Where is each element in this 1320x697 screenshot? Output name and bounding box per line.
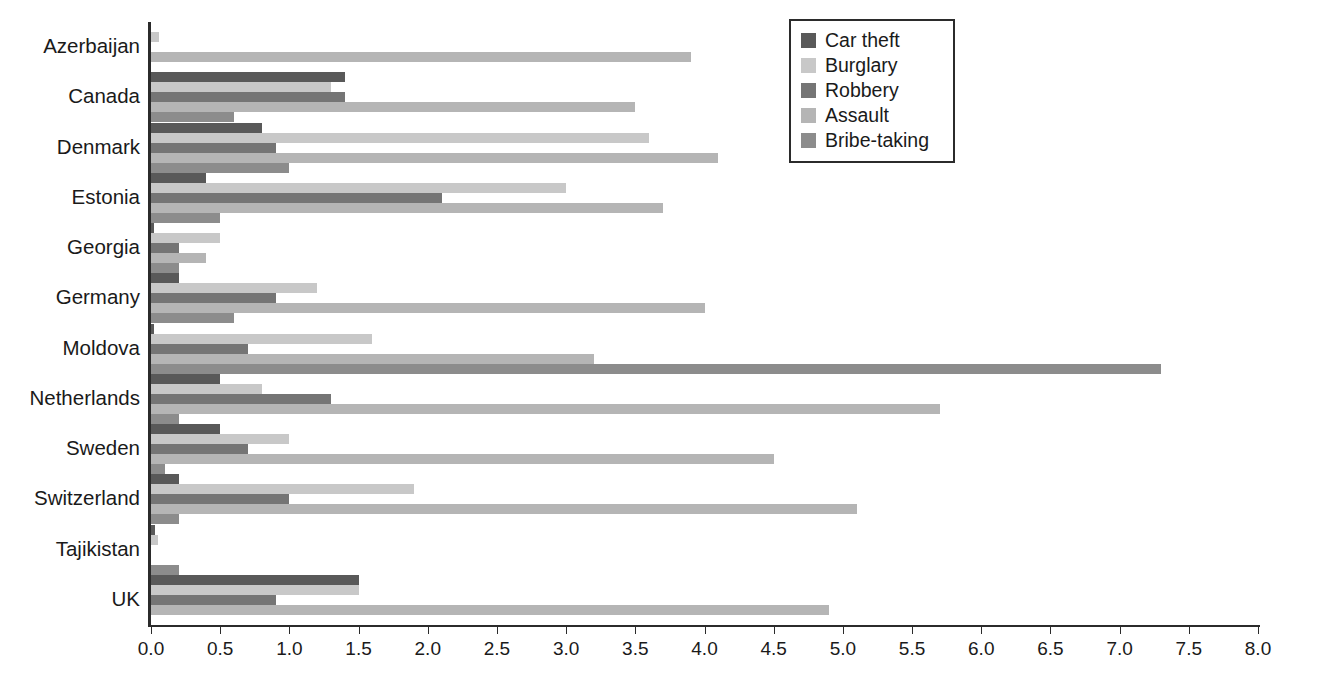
bar: [151, 414, 179, 424]
x-axis-tick: [428, 625, 429, 634]
bar: [151, 133, 649, 143]
bar: [151, 52, 691, 62]
x-axis-tick: [151, 625, 152, 634]
legend-label: Bribe-taking: [825, 131, 929, 151]
bar: [151, 303, 705, 313]
x-axis-tick: [220, 625, 221, 634]
bar: [151, 324, 154, 334]
x-axis-tick-label: 1.0: [276, 638, 302, 660]
x-axis-tick: [289, 625, 290, 634]
bar: [151, 474, 179, 484]
x-axis-tick-label: 4.5: [760, 638, 786, 660]
bar: [151, 394, 331, 404]
bar: [151, 183, 566, 193]
bar: [151, 293, 276, 303]
x-axis-tick-label: 7.5: [1176, 638, 1202, 660]
y-axis-category-label: Tajikistan: [56, 537, 140, 561]
y-axis-category-label: Switzerland: [34, 486, 140, 510]
bar: [151, 384, 262, 394]
legend-item: Burglary: [801, 53, 943, 78]
legend-label: Car theft: [825, 31, 900, 51]
bar: [151, 454, 774, 464]
legend-swatch-icon: [801, 108, 816, 123]
bar: [151, 444, 248, 454]
bar: [151, 163, 289, 173]
bar: [151, 112, 234, 122]
legend-swatch-icon: [801, 83, 816, 98]
x-axis-tick-label: 3.0: [553, 638, 579, 660]
legend-swatch-icon: [801, 33, 816, 48]
x-axis-tick: [705, 625, 706, 634]
x-axis-tick-label: 2.0: [415, 638, 441, 660]
bar: [151, 213, 220, 223]
legend-label: Robbery: [825, 81, 899, 101]
bar: [151, 143, 276, 153]
bar: [151, 364, 1161, 374]
bar: [151, 313, 234, 323]
x-axis-tick: [359, 625, 360, 634]
bar: [151, 32, 159, 42]
bar: [151, 283, 317, 293]
x-axis-tick-label: 4.0: [691, 638, 717, 660]
legend-swatch-icon: [801, 133, 816, 148]
plot-area: [151, 22, 1258, 625]
x-axis-tick: [635, 625, 636, 634]
y-axis-category-label: Georgia: [67, 235, 140, 259]
x-axis-tick: [497, 625, 498, 634]
bar: [151, 525, 155, 535]
bar: [151, 253, 206, 263]
legend-label: Burglary: [825, 56, 898, 76]
bar: [151, 92, 345, 102]
x-axis-tick-label: 1.5: [345, 638, 371, 660]
bar: [151, 193, 442, 203]
x-axis-tick: [912, 625, 913, 634]
y-axis-category-label: Sweden: [66, 436, 140, 460]
x-axis-tick-label: 5.0: [830, 638, 856, 660]
x-axis-tick-label: 6.5: [1037, 638, 1063, 660]
bar: [151, 102, 635, 112]
bar: [151, 223, 154, 233]
y-axis-category-label: Denmark: [57, 135, 140, 159]
bar: [151, 434, 289, 444]
legend-swatch-icon: [801, 58, 816, 73]
bar: [151, 72, 345, 82]
bar: [151, 123, 262, 133]
x-axis-tick-label: 3.5: [622, 638, 648, 660]
bar: [151, 504, 857, 514]
bar: [151, 424, 220, 434]
legend-item: Assault: [801, 103, 943, 128]
bar: [151, 494, 289, 504]
x-axis-tick: [1258, 625, 1259, 634]
y-axis-category-label: UK: [112, 587, 140, 611]
x-axis-tick: [1189, 625, 1190, 634]
x-axis-tick-label: 5.5: [899, 638, 925, 660]
bar: [151, 273, 179, 283]
y-axis-category-label: Germany: [56, 285, 140, 309]
y-axis-category-label: Azerbaijan: [43, 34, 140, 58]
bar: [151, 243, 179, 253]
bar: [151, 153, 718, 163]
y-axis-category-label: Moldova: [63, 336, 141, 360]
bar: [151, 535, 158, 545]
x-axis-tick-label: 7.0: [1106, 638, 1132, 660]
legend-item: Car theft: [801, 28, 943, 53]
x-axis-tick: [566, 625, 567, 634]
bar: [151, 484, 414, 494]
bar: [151, 173, 206, 183]
bar: [151, 374, 220, 384]
legend-item: Robbery: [801, 78, 943, 103]
x-axis-tick: [981, 625, 982, 634]
y-axis-category-label: Estonia: [72, 185, 140, 209]
bar: [151, 464, 165, 474]
y-axis-category-label: Canada: [68, 84, 140, 108]
x-axis-tick: [1050, 625, 1051, 634]
legend-item: Bribe-taking: [801, 128, 943, 153]
bar: [151, 82, 331, 92]
bar: [151, 233, 220, 243]
x-axis-tick: [843, 625, 844, 634]
y-axis-category-label: Netherlands: [29, 386, 140, 410]
bar: [151, 565, 179, 575]
x-axis-tick-label: 8.0: [1245, 638, 1271, 660]
bar: [151, 263, 179, 273]
x-axis-tick-label: 0.5: [207, 638, 233, 660]
